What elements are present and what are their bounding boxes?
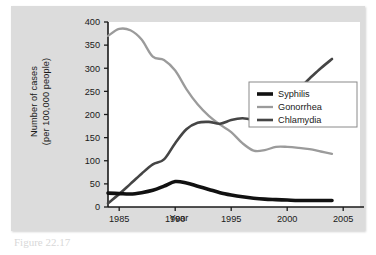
series-line-syphilis	[108, 181, 332, 200]
y-tick-label: 100	[85, 156, 100, 166]
line-chart: 050100150200250300350400 198519901995200…	[11, 6, 365, 231]
y-tick-label: 200	[85, 110, 100, 120]
x-tick-label: 2005	[333, 214, 353, 224]
legend-label-gonorrhea: Gonorrhea	[278, 102, 323, 112]
series-line-chlamydia	[108, 59, 332, 203]
legend-label-chlamydia: Chlamydia	[278, 115, 322, 125]
x-tick-label: 1990	[165, 214, 185, 224]
chart-legend: SyphilisGonorrheaChlamydia	[249, 82, 357, 127]
y-tick-label: 300	[85, 64, 100, 74]
figure-container: Number of cases (per 100,000 people) Yea…	[0, 0, 376, 255]
figure-panel: Number of cases (per 100,000 people) Yea…	[11, 6, 365, 231]
x-tick-label: 2000	[277, 214, 297, 224]
legend-label-syphilis: Syphilis	[278, 89, 310, 99]
y-tick-label: 250	[85, 87, 100, 97]
y-tick-label: 400	[85, 17, 100, 27]
y-tick-label-group: 050100150200250300350400	[85, 17, 100, 212]
y-tick-label: 50	[90, 179, 100, 189]
x-tick-label-group: 19851990199520002005	[109, 214, 353, 224]
x-tick-label: 1985	[109, 214, 129, 224]
y-tick-label: 150	[85, 133, 100, 143]
y-tick-label: 0	[95, 202, 100, 212]
y-tick-label: 350	[85, 40, 100, 50]
caption-fragment: Figure 22.17	[14, 236, 164, 250]
x-tick-label: 1995	[221, 214, 241, 224]
